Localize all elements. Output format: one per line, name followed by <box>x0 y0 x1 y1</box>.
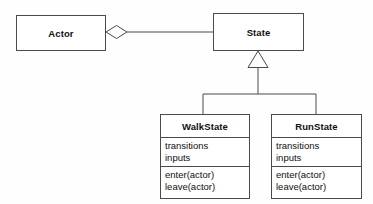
operation-item: enter(actor) <box>165 169 249 181</box>
uml-class-state-name: State <box>214 14 303 50</box>
attribute-item: inputs <box>165 152 249 164</box>
uml-class-walkstate-name: WalkState <box>161 115 249 137</box>
uml-class-runstate-operations: enter(actor) leave(actor) <box>272 166 361 198</box>
uml-class-diagram: Actor State WalkState transitions inputs… <box>0 0 373 204</box>
uml-class-runstate-name: RunState <box>272 115 361 137</box>
uml-class-state[interactable]: State <box>213 13 304 51</box>
attribute-item: transitions <box>165 140 249 152</box>
uml-class-actor[interactable]: Actor <box>16 15 106 51</box>
operation-item: enter(actor) <box>276 169 361 181</box>
operation-item: leave(actor) <box>165 181 249 193</box>
uml-class-runstate-attributes: transitions inputs <box>272 137 361 166</box>
uml-class-walkstate-operations: enter(actor) leave(actor) <box>161 166 249 198</box>
hollow-diamond-icon <box>106 26 127 39</box>
attribute-item: transitions <box>276 140 361 152</box>
uml-class-runstate[interactable]: RunState transitions inputs enter(actor)… <box>271 114 362 199</box>
attribute-item: inputs <box>276 152 361 164</box>
hollow-triangle-icon <box>248 51 268 68</box>
uml-class-actor-name: Actor <box>17 16 105 50</box>
uml-class-walkstate-attributes: transitions inputs <box>161 137 249 166</box>
operation-item: leave(actor) <box>276 181 361 193</box>
uml-class-walkstate[interactable]: WalkState transitions inputs enter(actor… <box>160 114 250 199</box>
